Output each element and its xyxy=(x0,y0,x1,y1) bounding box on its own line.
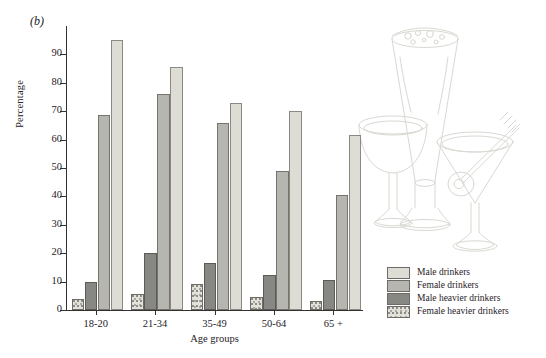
y-tick-label: 70 xyxy=(52,104,63,115)
legend-label: Female drinkers xyxy=(417,281,478,291)
y-tick-label: 0 xyxy=(57,303,62,314)
bar-female-drinkers-65 xyxy=(336,195,349,310)
legend-item-female-drinkers: Female drinkers xyxy=(387,279,509,292)
x-tick-label-21-34: 21-34 xyxy=(143,318,168,329)
bar-female-heavier-35-49 xyxy=(191,284,204,310)
chart-legend: Male drinkersFemale drinkersMale heavier… xyxy=(387,266,509,318)
bar-male-drinkers-21-34 xyxy=(170,67,183,310)
bar-male-drinkers-35-49 xyxy=(230,103,243,310)
legend-item-female-heavier: Female heavier drinkers xyxy=(387,305,509,318)
bar-male-heavier-35-49 xyxy=(204,263,217,310)
panel-label: (b) xyxy=(30,14,44,29)
legend-swatch-female-drinkers xyxy=(387,280,410,292)
bar-male-drinkers-50-64 xyxy=(289,111,302,310)
legend-item-male-drinkers: Male drinkers xyxy=(387,266,509,279)
legend-item-male-heavier: Male heavier drinkers xyxy=(387,292,509,305)
bar-female-heavier-21-34 xyxy=(131,294,144,310)
y-tick-label: 20 xyxy=(52,246,63,257)
bar-male-drinkers-65 xyxy=(349,135,362,310)
bar-female-drinkers-21-34 xyxy=(157,94,170,310)
y-axis-title: Percentage xyxy=(14,80,25,128)
bar-chart-figure: (b) xyxy=(0,0,546,358)
glassware-illustration xyxy=(356,12,546,262)
legend-label: Male heavier drinkers xyxy=(417,294,500,304)
bar-male-heavier-21-34 xyxy=(144,253,157,310)
legend-label: Male drinkers xyxy=(417,268,470,278)
x-axis-title: Age groups xyxy=(66,333,363,344)
x-tick-label-50-64: 50-64 xyxy=(262,318,287,329)
x-tick-mark xyxy=(333,310,334,315)
bar-male-heavier-50-64 xyxy=(263,275,276,311)
bar-female-drinkers-50-64 xyxy=(276,171,289,310)
legend-swatch-female-heavier xyxy=(387,306,410,318)
x-tick-mark xyxy=(215,310,216,315)
y-tick-label: 10 xyxy=(52,275,63,286)
bar-male-heavier-18-20 xyxy=(85,282,98,310)
legend-swatch-male-heavier xyxy=(387,293,410,305)
y-tick-label: 80 xyxy=(52,76,63,87)
bar-female-heavier-18-20 xyxy=(72,299,85,310)
y-tick-label: 40 xyxy=(52,189,63,200)
bar-male-drinkers-18-20 xyxy=(111,40,124,310)
x-tick-label-18-20: 18-20 xyxy=(83,318,108,329)
legend-swatch-male-drinkers xyxy=(387,267,410,279)
bar-female-drinkers-18-20 xyxy=(98,115,111,310)
legend-label: Female heavier drinkers xyxy=(417,307,509,317)
x-tick-label-65: 65 + xyxy=(324,318,343,329)
x-tick-mark xyxy=(96,310,97,315)
bar-male-heavier-65 xyxy=(323,280,336,310)
bar-female-heavier-50-64 xyxy=(250,297,263,310)
y-tick-label: 30 xyxy=(52,218,63,229)
y-tick-label: 90 xyxy=(52,47,63,58)
bar-female-heavier-65 xyxy=(310,301,323,310)
x-tick-mark xyxy=(155,310,156,315)
y-tick-label: 50 xyxy=(52,161,63,172)
plot-area: 010203040506070809018-2021-3435-4950-646… xyxy=(66,26,363,310)
x-tick-mark xyxy=(274,310,275,315)
y-tick-label: 60 xyxy=(52,133,63,144)
x-tick-label-35-49: 35-49 xyxy=(202,318,227,329)
bar-female-drinkers-35-49 xyxy=(217,123,230,310)
